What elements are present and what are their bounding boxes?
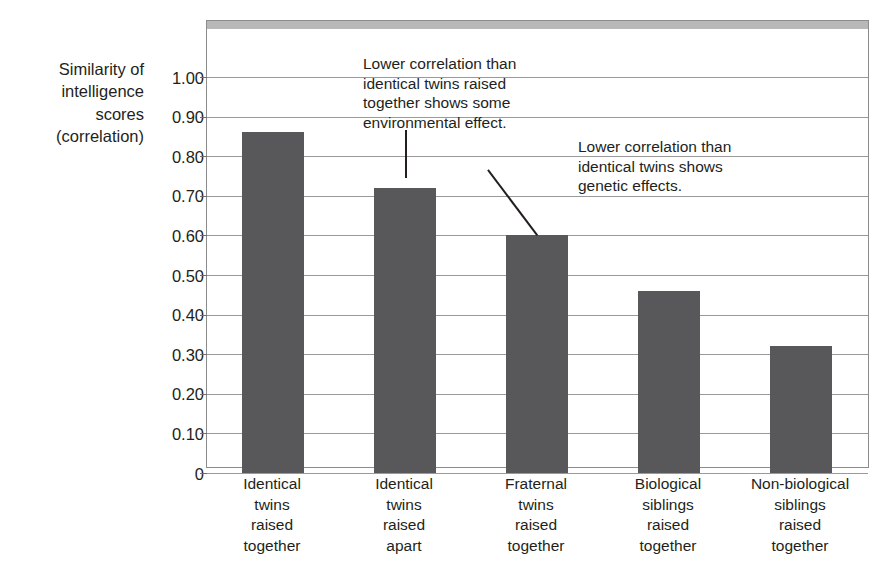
- annotation-line: genetic effects.: [578, 176, 774, 196]
- bar: [506, 235, 568, 473]
- bar: [242, 132, 304, 473]
- x-axis-category-label-line: raised: [338, 515, 470, 536]
- annotation-genetic-effects: Lower correlation than identical twins s…: [578, 137, 774, 196]
- y-axis-tick-label: 0.90: [148, 109, 204, 126]
- x-axis-category-label-line: together: [602, 536, 734, 557]
- y-axis-tick-label: 0.70: [148, 188, 204, 205]
- y-axis-tick: [200, 196, 207, 197]
- x-axis-category-label-line: together: [470, 536, 602, 557]
- y-axis-title-line: intelligence: [8, 80, 144, 102]
- y-axis-tick-label: 0.20: [148, 386, 204, 403]
- x-axis-category-label-line: siblings: [734, 495, 866, 516]
- annotation-line: together shows some: [363, 93, 563, 113]
- bar: [638, 291, 700, 473]
- x-axis-category-label-line: together: [206, 536, 338, 557]
- y-axis-tick-label: 0.60: [148, 228, 204, 245]
- plot-top-band: [207, 21, 868, 29]
- x-axis-category-label-line: Non-biological: [734, 474, 866, 495]
- x-axis-category-labels: IdenticaltwinsraisedtogetherIdenticaltwi…: [206, 474, 869, 562]
- x-axis-category-label-line: Biological: [602, 474, 734, 495]
- y-axis-tick: [200, 235, 207, 236]
- x-axis-category-label-line: Fraternal: [470, 474, 602, 495]
- annotation-line: identical twins shows: [578, 157, 774, 177]
- y-axis-tick: [200, 275, 207, 276]
- x-axis-category-label-line: raised: [734, 515, 866, 536]
- y-axis-title: Similarity of intelligence scores (corre…: [8, 58, 144, 148]
- y-axis-tick: [200, 77, 207, 78]
- x-axis-category-label-line: raised: [602, 515, 734, 536]
- x-axis-category-label-line: Identical: [206, 474, 338, 495]
- y-axis-tick-label: 0.30: [148, 346, 204, 363]
- y-axis-title-line: Similarity of: [8, 58, 144, 80]
- y-axis-tick-labels: 1.000.900.800.700.600.500.400.300.200.10…: [148, 0, 204, 562]
- y-axis-tick-label: 0: [148, 465, 204, 482]
- y-axis-title-line: scores: [8, 103, 144, 125]
- x-axis-category-label: Biologicalsiblingsraisedtogether: [602, 474, 734, 556]
- y-axis-tick-label: 1.00: [148, 69, 204, 86]
- annotation-leader-line: [405, 130, 407, 178]
- y-axis-title-line: (correlation): [8, 125, 144, 147]
- bar: [374, 188, 436, 473]
- x-axis-category-label: Non-biologicalsiblingsraisedtogether: [734, 474, 866, 556]
- y-axis-tick-label: 0.80: [148, 148, 204, 165]
- y-axis-tick: [200, 394, 207, 395]
- annotation-line: identical twins raised: [363, 74, 563, 94]
- x-axis-category-label-line: twins: [338, 495, 470, 516]
- y-axis-tick-label: 0.10: [148, 426, 204, 443]
- x-axis-category-label: Identicaltwinsraisedtogether: [206, 474, 338, 556]
- x-axis-category-label: Fraternaltwinsraisedtogether: [470, 474, 602, 556]
- bar: [770, 346, 832, 473]
- annotation-line: Lower correlation than: [578, 137, 774, 157]
- x-axis-category-label-line: together: [734, 536, 866, 557]
- y-axis-tick: [200, 117, 207, 118]
- x-axis-category-label: Identicaltwinsraisedapart: [338, 474, 470, 556]
- y-axis-tick: [200, 315, 207, 316]
- y-axis-tick: [200, 433, 207, 434]
- bar-chart: Similarity of intelligence scores (corre…: [0, 0, 877, 562]
- x-axis-category-label-line: Identical: [338, 474, 470, 495]
- y-axis-tick: [200, 156, 207, 157]
- x-axis-category-label-line: raised: [470, 515, 602, 536]
- y-axis-tick: [200, 354, 207, 355]
- x-axis-category-label-line: twins: [206, 495, 338, 516]
- x-axis-category-label-line: apart: [338, 536, 470, 557]
- x-axis-category-label-line: twins: [470, 495, 602, 516]
- annotation-line: environmental effect.: [363, 113, 563, 133]
- annotation-environmental-effect: Lower correlation than identical twins r…: [363, 54, 563, 132]
- annotation-line: Lower correlation than: [363, 54, 563, 74]
- gridline: [207, 196, 868, 197]
- y-axis-tick-label: 0.50: [148, 267, 204, 284]
- x-axis-category-label-line: siblings: [602, 495, 734, 516]
- y-axis-tick-label: 0.40: [148, 307, 204, 324]
- x-axis-category-label-line: raised: [206, 515, 338, 536]
